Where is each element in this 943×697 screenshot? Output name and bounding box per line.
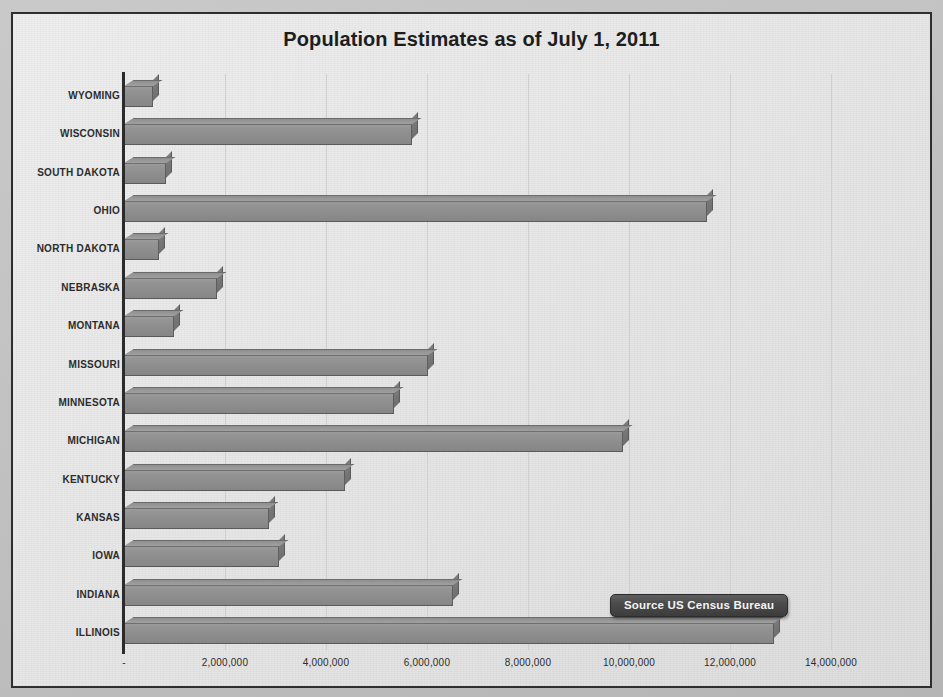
bar-front-face bbox=[124, 278, 217, 299]
category-label: WYOMING bbox=[11, 90, 120, 101]
bar-front-face bbox=[124, 431, 623, 452]
bar-side-face bbox=[153, 74, 159, 101]
bar bbox=[124, 393, 831, 414]
category-label: WISCONSIN bbox=[11, 128, 120, 139]
screenshot-canvas: Population Estimates as of July 1, 2011 … bbox=[0, 0, 943, 697]
category-label: OHIO bbox=[11, 205, 120, 216]
category-label: KENTUCKY bbox=[11, 474, 120, 485]
bar bbox=[124, 86, 831, 107]
chart-card: Population Estimates as of July 1, 2011 … bbox=[11, 12, 932, 688]
bar-side-face bbox=[269, 496, 275, 523]
bar bbox=[124, 470, 831, 491]
tick-label: 8,000,000 bbox=[505, 657, 551, 668]
bar-side-face bbox=[453, 573, 459, 600]
category-label: MISSOURI bbox=[11, 359, 120, 370]
tick-label: - bbox=[122, 657, 126, 668]
bar bbox=[124, 431, 831, 452]
bar-side-face bbox=[623, 419, 629, 446]
category-label: SOUTH DAKOTA bbox=[11, 167, 120, 178]
bar bbox=[124, 623, 831, 644]
bar-front-face bbox=[124, 508, 269, 529]
bar-front-face bbox=[124, 355, 428, 376]
bar bbox=[124, 124, 831, 145]
bar-front-face bbox=[124, 623, 774, 644]
bar-front-face bbox=[124, 585, 453, 606]
category-label: NORTH DAKOTA bbox=[11, 243, 120, 254]
bar-side-face bbox=[279, 534, 285, 561]
bar bbox=[124, 355, 831, 376]
plot-area: WYOMINGWISCONSINSOUTH DAKOTAOHIONORTH DA… bbox=[124, 74, 831, 650]
bar-side-face bbox=[707, 189, 713, 216]
chart-title: Population Estimates as of July 1, 2011 bbox=[13, 28, 930, 51]
category-label: INDIANA bbox=[11, 589, 120, 600]
value-axis-line bbox=[122, 72, 125, 654]
bar-front-face bbox=[124, 163, 166, 184]
bar-side-face bbox=[412, 112, 418, 139]
tick-label: 2,000,000 bbox=[202, 657, 248, 668]
category-label: MONTANA bbox=[11, 320, 120, 331]
bar bbox=[124, 316, 831, 337]
category-label: ILLINOIS bbox=[11, 627, 120, 638]
bar-front-face bbox=[124, 546, 279, 567]
category-label: MICHIGAN bbox=[11, 435, 120, 446]
bar-front-face bbox=[124, 239, 159, 260]
tick-label: 6,000,000 bbox=[404, 657, 450, 668]
bar-front-face bbox=[124, 86, 153, 107]
bar-side-face bbox=[217, 266, 223, 293]
tick-label: 10,000,000 bbox=[603, 657, 655, 668]
category-axis-labels: WYOMINGWISCONSINSOUTH DAKOTAOHIONORTH DA… bbox=[11, 74, 120, 650]
bar-front-face bbox=[124, 393, 394, 414]
bar-side-face bbox=[159, 227, 165, 254]
tick-label: 4,000,000 bbox=[303, 657, 349, 668]
category-label: NEBRASKA bbox=[11, 282, 120, 293]
bar-front-face bbox=[124, 316, 174, 337]
bar bbox=[124, 163, 831, 184]
bar-front-face bbox=[124, 470, 345, 491]
bar-side-face bbox=[345, 458, 351, 485]
gridline bbox=[831, 74, 832, 650]
bar bbox=[124, 278, 831, 299]
category-label: IOWA bbox=[11, 550, 120, 561]
tick-label: 14,000,000 bbox=[805, 657, 857, 668]
bar bbox=[124, 239, 831, 260]
bar-front-face bbox=[124, 124, 412, 145]
value-axis-tick-labels: -2,000,0004,000,0006,000,0008,000,00010,… bbox=[124, 657, 831, 681]
bar bbox=[124, 546, 831, 567]
bar-side-face bbox=[166, 151, 172, 178]
bar-side-face bbox=[428, 343, 434, 370]
bar-front-face bbox=[124, 201, 707, 222]
bar-side-face bbox=[174, 304, 180, 331]
tick-label: 12,000,000 bbox=[704, 657, 756, 668]
source-callout: Source US Census Bureau bbox=[610, 594, 788, 617]
bar bbox=[124, 508, 831, 529]
category-label: KANSAS bbox=[11, 512, 120, 523]
bar-side-face bbox=[394, 381, 400, 408]
category-label: MINNESOTA bbox=[11, 397, 120, 408]
bar bbox=[124, 201, 831, 222]
